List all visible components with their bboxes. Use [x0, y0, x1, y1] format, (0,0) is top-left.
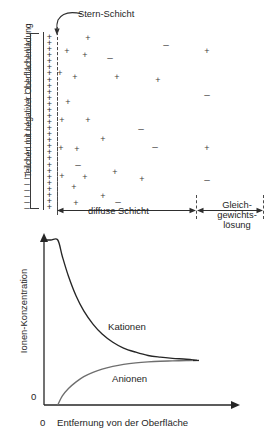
diffuse-layer-cation: +	[82, 173, 87, 182]
diffuse-layer-cation: +	[58, 144, 63, 153]
diffuse-layer-cation: +	[65, 98, 70, 107]
diffuse-layer-cation: +	[114, 73, 119, 82]
diffuse-layer-cation: +	[71, 183, 76, 192]
diffuse-layer-anion: –	[107, 53, 113, 63]
diffuse-layer-anion: –	[204, 90, 210, 100]
diffuse-layer-cation: +	[57, 69, 62, 78]
stern-layer-label: Stern-Schicht	[78, 9, 134, 19]
diffuse-layer-cation: +	[204, 47, 209, 56]
diffuse-layer-cation: +	[64, 47, 69, 56]
plot-x-axis-arrowhead	[231, 401, 240, 409]
diffuse-layer-cation: +	[100, 192, 105, 201]
diffuse-layer-anion: –	[152, 142, 158, 152]
double-layer-figure: Teilchen mit negativer Oberflächenladung…	[0, 0, 273, 443]
cation-concentration-curve	[44, 239, 197, 361]
diffuse-layer-cation: +	[85, 34, 90, 43]
diffuse-layer-label: diffuse Schicht	[88, 206, 149, 216]
diffuse-layer-cation: +	[112, 168, 117, 177]
plot-canvas	[0, 222, 273, 443]
diffuse-layer-anion: –	[138, 124, 144, 134]
diffuse-layer-anion: –	[204, 175, 210, 185]
plot-y-axis-label: Ionen-Konzentration	[19, 248, 29, 374]
diffuse-layer-cation: +	[59, 116, 64, 125]
plot-x-origin-tick-label: 0	[40, 418, 45, 428]
plot-y-origin-tick-label: 0	[31, 392, 36, 402]
surface-negative-charge-column: –––––––––––––––––––––––––––––	[22, 33, 32, 209]
cation-curve-label: Kationen	[108, 322, 146, 332]
diffuse-layer-cation: +	[59, 172, 64, 181]
plot-x-axis-label: Entfernung von der Oberfläche	[57, 418, 188, 428]
diffuse-layer-cation: +	[139, 175, 144, 184]
measure-tick-stern-edge	[57, 27, 58, 215]
ion-concentration-plot: Ionen-Konzentration Entfernung von der O…	[0, 222, 273, 443]
diffuse-layer-cation: +	[82, 51, 87, 60]
diffuse-layer-cation: +	[74, 145, 79, 154]
electric-double-layer-panel: Teilchen mit negativer Oberflächenladung…	[0, 0, 273, 222]
diffuse-layer-cation: +	[85, 116, 90, 125]
diffuse-layer-cation: +	[204, 144, 209, 153]
diffuse-layer-cation: +	[100, 135, 105, 144]
stern-layer-cation-column: +++++++++++++++++++++++++++++	[44, 33, 55, 209]
anion-curve-label: Anionen	[112, 374, 147, 384]
diffuse-layer-anion: –	[75, 160, 81, 170]
diffuse-layer-anion: –	[163, 40, 169, 50]
diffuse-layer-cation: +	[72, 73, 77, 82]
diffuse-layer-cation: +	[155, 76, 160, 85]
